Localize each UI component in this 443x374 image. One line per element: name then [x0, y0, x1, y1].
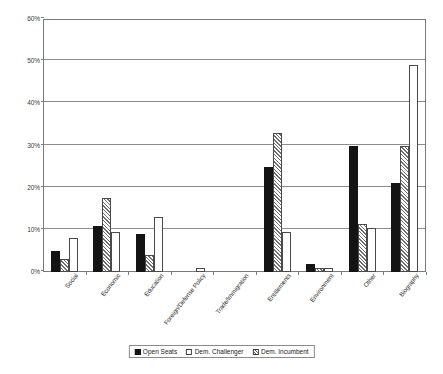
bar-dem-challenger [69, 238, 78, 272]
legend-swatch-dem-challenger [186, 349, 192, 355]
legend-swatch-dem-incumbent [252, 349, 258, 355]
x-axis-labels: SocialEconomicEducationForeign/Defense P… [43, 272, 426, 332]
y-axis-tick-label: 40% [27, 99, 40, 106]
x-axis-category-label: Economic [100, 272, 122, 297]
bar-group [213, 19, 256, 272]
y-axis-tick-label: 20% [27, 183, 40, 190]
bar-dem-challenger [111, 232, 120, 272]
bar-dem-incumbent [145, 255, 154, 272]
legend-item: Open Seats [134, 348, 177, 355]
bar-group [86, 19, 129, 272]
bar-group [298, 19, 341, 272]
x-axis-category-label: Foreign/Defense Policy [163, 272, 207, 326]
bar-open-seats [264, 167, 273, 272]
bar-group [171, 19, 214, 272]
legend-item: Dem. Incumbent [252, 348, 308, 355]
x-axis-category-label: Entitlements [266, 272, 292, 303]
bar-group [256, 19, 299, 272]
bar-group [383, 19, 426, 272]
bar-open-seats [391, 183, 400, 272]
bar-group [341, 19, 384, 272]
x-axis-category-label: Environment [308, 272, 335, 303]
bar-dem-incumbent [400, 146, 409, 273]
bar-open-seats [51, 251, 60, 272]
x-axis-tick-mark [426, 272, 427, 275]
y-axis-tick-label: 50% [27, 57, 40, 64]
bar-group [43, 19, 86, 272]
y-axis-tick-label: 60% [27, 15, 40, 22]
chart-legend: Open SeatsDem. ChallengerDem. Incumbent [128, 345, 314, 358]
bar-dem-challenger [282, 232, 291, 272]
bar-open-seats [349, 146, 358, 273]
legend-label: Open Seats [143, 348, 177, 355]
bar-group [128, 19, 171, 272]
bar-dem-incumbent [358, 224, 367, 272]
y-axis-tick-label: 10% [27, 225, 40, 232]
bar-groups [43, 19, 426, 272]
bar-dem-incumbent [60, 259, 69, 272]
bar-dem-incumbent [273, 133, 282, 272]
x-axis-category-label: Biography [397, 272, 419, 298]
legend-label: Dem. Challenger [195, 348, 244, 355]
x-axis-category-label: Trade/Immigration [214, 272, 250, 315]
bar-dem-challenger [409, 65, 418, 272]
x-axis-category-label: Other [362, 272, 377, 288]
y-axis-tick-label: 0% [31, 268, 40, 275]
bar-open-seats [136, 234, 145, 272]
bar-open-seats [306, 264, 315, 272]
legend-item: Dem. Challenger [186, 348, 243, 355]
bar-dem-challenger [154, 217, 163, 272]
y-axis-tick-label: 30% [27, 141, 40, 148]
legend-swatch-open-seats [134, 349, 140, 355]
legend-label: Dem. Incumbent [261, 348, 309, 355]
x-axis-category-label: Social [63, 272, 79, 289]
bar-open-seats [93, 226, 102, 272]
bar-dem-incumbent [102, 198, 111, 272]
bar-chart: 0%10%20%30%40%50%60% SocialEconomicEduca… [0, 0, 443, 374]
y-axis-tick-mark [41, 17, 44, 18]
x-axis-category-label: Education [142, 272, 164, 298]
bar-dem-challenger [367, 228, 376, 272]
